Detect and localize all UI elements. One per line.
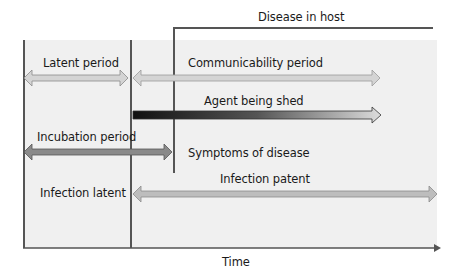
- communicability-period-arrow: [133, 70, 380, 86]
- incubation-period-arrow: [24, 144, 172, 160]
- time-axis-label: Time: [222, 255, 250, 269]
- incubation-period-label: Incubation period: [37, 130, 136, 144]
- agent-being-shed-label: Agent being shed: [204, 94, 304, 108]
- infection-latent-label: Infection latent: [40, 186, 126, 200]
- time-axis: [23, 244, 441, 252]
- communicability-period-label: Communicability period: [188, 56, 323, 70]
- latent-period-label: Latent period: [43, 56, 119, 70]
- agent-being-shed-arrow: [133, 107, 381, 123]
- infection-patent-arrow: [133, 186, 437, 202]
- symptoms-of-disease-label: Symptoms of disease: [188, 146, 310, 160]
- infection-patent-label: Infection patent: [220, 172, 310, 186]
- latent-period-arrow: [24, 70, 128, 86]
